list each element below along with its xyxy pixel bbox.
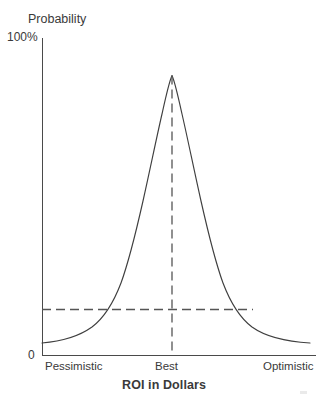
y-axis-tick-max: 100% — [7, 31, 38, 43]
chart-plot-area — [0, 0, 325, 402]
x-axis-tick-best: Best — [155, 361, 178, 373]
x-axis-tick-pessimistic: Pessimistic — [45, 361, 103, 373]
probability-roi-chart: Probability 100% 0 Pessimistic Best Opti… — [0, 0, 325, 402]
x-axis-tick-optimistic: Optimistic — [263, 361, 313, 373]
probability-bell-curve — [42, 76, 310, 344]
x-axis-title: ROI in Dollars — [122, 379, 206, 392]
y-axis-tick-min: 0 — [28, 349, 35, 361]
scan-artifact — [300, 391, 307, 394]
y-axis-title: Probability — [28, 13, 86, 26]
